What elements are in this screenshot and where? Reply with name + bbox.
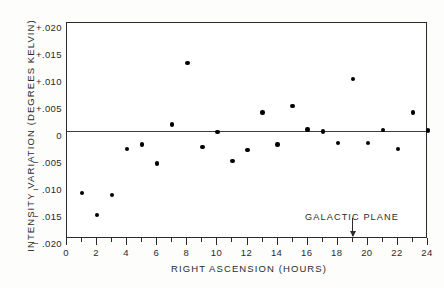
y-axis-tick-label: − .015	[10, 211, 62, 222]
data-point	[170, 122, 174, 126]
x-axis-tick	[66, 238, 67, 245]
x-axis-tick	[337, 238, 338, 245]
y-axis-tick-label: − .005	[10, 157, 62, 168]
x-axis-tick	[81, 238, 82, 242]
data-point	[305, 127, 309, 131]
data-point	[290, 104, 294, 108]
data-point	[426, 128, 430, 132]
x-axis-tick-label: 22	[382, 247, 412, 258]
x-axis-tick-label: 12	[232, 247, 262, 258]
x-axis-tick-label: 8	[171, 247, 201, 258]
y-axis-tick-label: +.020	[10, 22, 62, 33]
data-point	[260, 110, 264, 114]
data-point	[215, 130, 219, 134]
x-axis-tick	[247, 238, 248, 245]
data-point	[351, 77, 355, 81]
x-axis-tick-label: 24	[412, 247, 442, 258]
data-point	[155, 161, 159, 165]
x-axis-tick	[322, 238, 323, 242]
data-point	[321, 129, 325, 133]
x-axis-tick-label: 6	[141, 247, 171, 258]
x-axis-tick-label: 10	[201, 247, 231, 258]
scatter-plot-figure: INTENSITY VARIATION (DEGREES KELVIN) +.0…	[0, 0, 444, 288]
data-point	[230, 159, 234, 163]
x-axis-tick	[292, 238, 293, 242]
data-point	[95, 213, 99, 217]
data-point	[275, 142, 279, 146]
x-axis-tick	[156, 238, 157, 245]
x-axis-tick	[352, 238, 353, 242]
galactic-plane-arrow-icon	[352, 218, 353, 236]
x-axis-tick	[186, 238, 187, 245]
y-axis-tick-label: +.015	[10, 49, 62, 60]
x-axis-tick-label: 16	[292, 247, 322, 258]
data-point	[185, 61, 189, 65]
data-point	[110, 193, 114, 197]
data-point	[336, 141, 340, 145]
data-point	[140, 142, 144, 146]
x-axis-tick	[277, 238, 278, 245]
data-point	[396, 147, 400, 151]
x-axis-tick	[96, 238, 97, 245]
x-axis-tick	[397, 238, 398, 245]
y-axis-tick-label: +.005	[10, 103, 62, 114]
x-axis-tick-label: 4	[111, 247, 141, 258]
x-axis-tick	[216, 238, 217, 245]
x-axis-tick-label: 2	[81, 247, 111, 258]
x-axis-title: RIGHT ASCENSION (HOURS)	[0, 263, 444, 274]
x-axis-tick-label: 0	[51, 247, 81, 258]
x-axis-tick	[412, 238, 413, 242]
zero-reference-line	[67, 131, 428, 132]
x-axis-tick	[171, 238, 172, 242]
x-axis-tick	[307, 238, 308, 245]
data-point	[80, 191, 84, 195]
data-point	[200, 145, 204, 149]
y-axis-tick-label: 0	[10, 130, 62, 141]
x-axis-tick	[201, 238, 202, 242]
x-axis-tick	[367, 238, 368, 245]
x-axis-tick	[141, 238, 142, 242]
x-axis-tick	[126, 238, 127, 245]
data-point	[366, 141, 370, 145]
y-axis-tick-label: +.010	[10, 76, 62, 87]
x-axis-tick	[111, 238, 112, 242]
x-axis-tick	[382, 238, 383, 242]
x-axis-tick-label: 14	[262, 247, 292, 258]
x-axis-tick	[262, 238, 263, 242]
x-axis-tick	[427, 238, 428, 245]
x-axis-tick-label: 18	[322, 247, 352, 258]
x-axis-tick	[231, 238, 232, 242]
x-axis-tick-label: 20	[352, 247, 382, 258]
data-point	[245, 148, 249, 152]
data-point	[125, 147, 129, 151]
y-axis-tick-label: − .010	[10, 184, 62, 195]
data-point	[411, 110, 415, 114]
